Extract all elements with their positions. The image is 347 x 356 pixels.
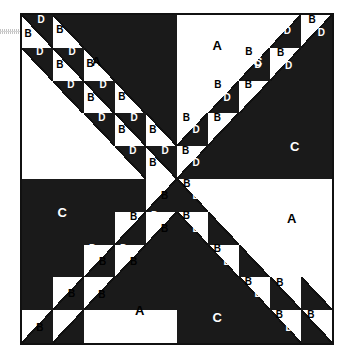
quilt-unit-shape	[301, 245, 332, 278]
quilt-unit-r4-c6	[208, 146, 239, 179]
quilt-unit-shape	[53, 15, 84, 48]
quilt-unit-r6-c9	[301, 212, 332, 245]
quilt-unit-r9-c8: BD	[270, 310, 301, 343]
quilt-unit-r4-c7	[239, 146, 270, 179]
quilt-unit-r4-c5: BD	[177, 146, 208, 179]
quilt-unit-shape	[115, 212, 146, 245]
quilt-unit-shape	[84, 277, 115, 310]
quilt-unit-shape	[301, 48, 332, 81]
quilt-unit-shape	[208, 310, 239, 343]
quilt-unit-shape	[208, 113, 239, 146]
quilt-unit-shape	[22, 179, 53, 212]
quilt-unit-r3-c3: DB	[115, 113, 146, 146]
quilt-unit-shape	[239, 146, 270, 179]
quilt-unit-shape	[146, 212, 177, 245]
quilt-unit-r5-c6	[208, 179, 239, 212]
quilt-unit-shape	[208, 212, 239, 245]
quilt-unit-r2-c4	[146, 81, 177, 114]
quilt-unit-r8-c8: B	[270, 277, 301, 310]
quilt-unit-r7-c6: BD	[208, 245, 239, 278]
quilt-unit-r6-c6: D	[208, 212, 239, 245]
quilt-unit-r2-c2: DB	[84, 81, 115, 114]
quilt-unit-r8-c1: DB	[53, 277, 84, 310]
quilt-unit-r7-c8	[270, 245, 301, 278]
quilt-unit-r4-c0	[22, 146, 53, 179]
quilt-unit-r1-c2: B	[84, 48, 115, 81]
quilt-unit-r2-c1: D	[53, 81, 84, 114]
quilt-unit-shape	[239, 212, 270, 245]
quilt-unit-shape	[53, 113, 84, 146]
quilt-unit-shape	[177, 146, 208, 179]
quilt-unit-shape	[239, 81, 270, 114]
quilt-unit-r2-c8	[270, 81, 301, 114]
quilt-unit-r2-c5	[177, 81, 208, 114]
quilt-unit-r7-c3: DB	[115, 245, 146, 278]
quilt-unit-r6-c8	[270, 212, 301, 245]
quilt-unit-r3-c8	[270, 113, 301, 146]
quilt-unit-grid: DBBDBDDDBBBDBDDDBBBDBDDBBBDBDDBBDDBBDBDB…	[22, 15, 332, 343]
quilt-unit-r4-c1	[53, 146, 84, 179]
quilt-unit-shape	[53, 146, 84, 179]
quilt-unit-r4-c4: DB	[146, 146, 177, 179]
quilt-unit-shape	[22, 48, 53, 81]
quilt-unit-r7-c5	[177, 245, 208, 278]
quilt-unit-shape	[301, 113, 332, 146]
quilt-unit-shape	[53, 277, 84, 310]
quilt-unit-shape	[177, 113, 208, 146]
quilt-unit-r8-c3	[115, 277, 146, 310]
quilt-unit-r2-c9	[301, 81, 332, 114]
quilt-unit-r9-c1: D	[53, 310, 84, 343]
quilt-unit-r1-c9	[301, 48, 332, 81]
quilt-unit-r1-c5	[177, 48, 208, 81]
quilt-unit-shape	[301, 15, 332, 48]
quilt-unit-r1-c1: DB	[53, 48, 84, 81]
quilt-unit-shape	[270, 81, 301, 114]
quilt-unit-shape	[301, 146, 332, 179]
quilt-unit-shape	[177, 81, 208, 114]
quilt-unit-shape	[208, 15, 239, 48]
quilt-unit-r8-c4	[146, 277, 177, 310]
quilt-unit-shape	[146, 113, 177, 146]
quilt-unit-r1-c3	[115, 48, 146, 81]
quilt-unit-shape	[115, 113, 146, 146]
quilt-unit-r0-c6	[208, 15, 239, 48]
quilt-unit-r3-c2: D	[84, 113, 115, 146]
quilt-unit-shape	[53, 48, 84, 81]
quilt-unit-r5-c4: DB	[146, 179, 177, 212]
quilt-unit-r0-c1: B	[53, 15, 84, 48]
quilt-unit-shape	[270, 277, 301, 310]
quilt-unit-r4-c2	[84, 146, 115, 179]
quilt-unit-shape	[53, 81, 84, 114]
quilt-unit-shape	[115, 179, 146, 212]
quilt-unit-shape	[84, 212, 115, 245]
quilt-unit-shape	[53, 310, 84, 343]
quilt-unit-r6-c7	[239, 212, 270, 245]
quilt-unit-r4-c9	[301, 146, 332, 179]
quilt-unit-shape	[115, 146, 146, 179]
quilt-unit-r0-c2	[84, 15, 115, 48]
quilt-unit-r9-c6	[208, 310, 239, 343]
quilt-unit-shape	[208, 81, 239, 114]
quilt-unit-r9-c7	[239, 310, 270, 343]
quilt-unit-shape	[22, 146, 53, 179]
quilt-unit-r6-c5: BD	[177, 212, 208, 245]
quilt-unit-shape	[270, 179, 301, 212]
quilt-unit-shape	[177, 179, 208, 212]
quilt-unit-shape	[84, 310, 115, 343]
quilt-unit-shape	[84, 81, 115, 114]
quilt-block-frame: DBBDBDDDBBBDBDDDBBBDBDDBBBDBDDBBDDBBDBDB…	[20, 13, 334, 345]
quilt-unit-r9-c3	[115, 310, 146, 343]
quilt-unit-r9-c2	[84, 310, 115, 343]
quilt-unit-r3-c5: BD	[177, 113, 208, 146]
quilt-unit-r9-c5	[177, 310, 208, 343]
quilt-unit-shape	[239, 15, 270, 48]
quilt-unit-shape	[115, 277, 146, 310]
quilt-unit-r4-c3: D	[115, 146, 146, 179]
quilt-unit-shape	[146, 179, 177, 212]
quilt-unit-shape	[53, 212, 84, 245]
quilt-unit-r6-c1	[53, 212, 84, 245]
quilt-unit-shape	[84, 245, 115, 278]
left-edge-guide-line	[0, 31, 21, 32]
quilt-unit-shape	[22, 15, 53, 48]
quilt-unit-r0-c3	[115, 15, 146, 48]
